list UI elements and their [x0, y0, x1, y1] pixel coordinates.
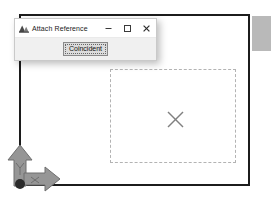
- maximize-icon[interactable]: [118, 20, 137, 37]
- dialog-title: Attach Reference: [32, 25, 88, 32]
- minimize-icon[interactable]: [99, 20, 118, 37]
- attach-reference-dialog[interactable]: Attach Reference Coincident: [14, 18, 157, 61]
- dialog-body: Coincident: [15, 38, 156, 60]
- selected-vertex-highlight[interactable]: [252, 16, 271, 51]
- close-icon[interactable]: [137, 20, 156, 37]
- coincident-button[interactable]: Coincident: [63, 42, 108, 56]
- dialog-titlebar[interactable]: Attach Reference: [15, 19, 156, 38]
- component-origin-cross-icon: [166, 110, 185, 129]
- origin-triad[interactable]: [2, 141, 66, 197]
- application-window: Attach Reference Coincident: [0, 0, 271, 207]
- attach-reference-app-icon: [19, 23, 29, 33]
